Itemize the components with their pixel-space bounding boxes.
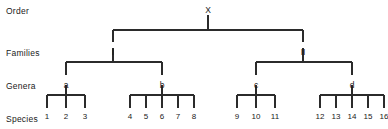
genus-node-c: c [254, 80, 258, 90]
species-node-13: 13 [332, 112, 341, 121]
species-node-12: 12 [316, 112, 325, 121]
order-node-X: X [205, 5, 211, 15]
species-node-15: 15 [364, 112, 373, 121]
rank-label-genera: Genera [6, 81, 36, 91]
species-node-16: 16 [380, 112, 388, 121]
species-node-8: 8 [192, 112, 196, 121]
genus-node-a: a [64, 80, 69, 90]
family-node-I: I [112, 47, 114, 57]
family-node-II: II [301, 47, 306, 57]
genus-node-d: d [350, 80, 355, 90]
taxonomy-diagram: OrderFamiliesGeneraSpecies XIIIabcd 1234… [0, 0, 388, 129]
rank-label-order: Order [6, 6, 29, 16]
species-node-9: 9 [235, 112, 239, 121]
species-node-6: 6 [160, 112, 164, 121]
rank-label-species: Species [6, 114, 38, 124]
tree-lines-svg [0, 0, 388, 129]
species-node-10: 10 [252, 112, 261, 121]
genus-node-b: b [160, 80, 165, 90]
rank-label-families: Families [6, 48, 40, 58]
species-node-11: 11 [271, 112, 279, 121]
species-node-3: 3 [83, 112, 87, 121]
species-node-14: 14 [348, 112, 357, 121]
species-node-5: 5 [144, 112, 148, 121]
species-node-4: 4 [128, 112, 132, 121]
species-node-1: 1 [45, 112, 49, 121]
species-node-7: 7 [176, 112, 180, 121]
species-node-2: 2 [64, 112, 68, 121]
